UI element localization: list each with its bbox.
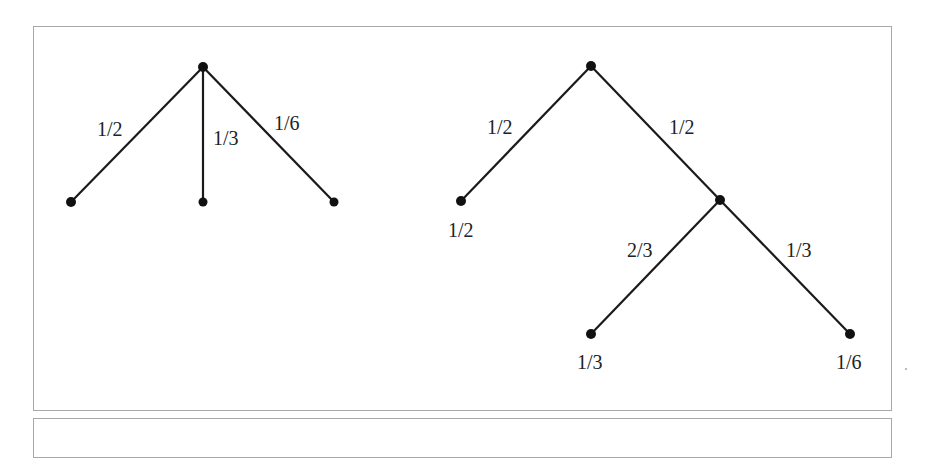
edge-right-a	[461, 66, 591, 201]
edge-label: 1/2	[487, 117, 513, 137]
leaf-label: 1/6	[836, 352, 862, 372]
node-leaf	[586, 329, 596, 339]
edge-left-1	[71, 67, 203, 202]
edge-label: 1/2	[669, 117, 695, 137]
edge-label: 1/3	[786, 240, 812, 260]
node-root-left	[198, 62, 208, 72]
node-leaf	[199, 198, 208, 207]
edge-right-b	[591, 200, 720, 334]
edge-label: 1/2	[97, 119, 123, 139]
edge-label: 1/3	[213, 128, 239, 148]
leaf-label: 1/2	[448, 220, 474, 240]
edge-label: 1/6	[274, 113, 300, 133]
node-leaf	[845, 329, 855, 339]
node-leaf	[66, 197, 76, 207]
leaf-label: 1/3	[577, 352, 603, 372]
node-leaf	[456, 196, 466, 206]
right-tree	[461, 66, 850, 334]
node-mid	[715, 195, 725, 205]
node-root-right	[586, 61, 596, 71]
edge-right-c	[720, 200, 850, 334]
stray-mark	[905, 368, 907, 370]
right-tree-nodes	[456, 61, 855, 339]
edge-label: 2/3	[627, 240, 653, 260]
node-leaf	[330, 198, 339, 207]
edge-right-mid	[591, 66, 720, 200]
